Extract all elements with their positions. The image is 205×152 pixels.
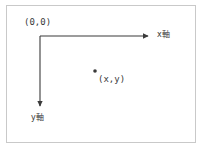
x-axis-label: x軸 — [157, 30, 170, 40]
diagram-root: (0,0) x軸 y軸 (x,y) — [0, 0, 205, 152]
point-coordinate-label: (x,y) — [98, 74, 125, 84]
point-marker — [93, 69, 97, 73]
y-axis-label: y軸 — [31, 113, 44, 123]
origin-label: (0,0) — [24, 17, 51, 27]
